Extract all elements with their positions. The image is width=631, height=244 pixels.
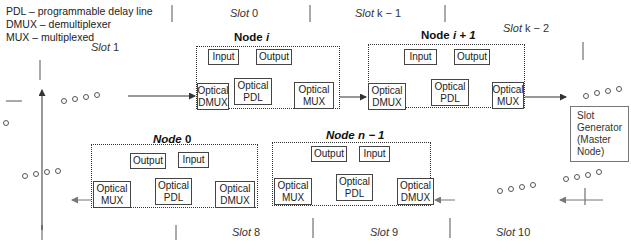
node-0-dmux: OpticalDMUX <box>215 181 255 208</box>
node-i-plus-1-input: Input <box>404 49 437 65</box>
node-n-minus-1-pdl: OpticalPDL <box>336 174 373 201</box>
node-0-mux: OpticalMUX <box>93 181 131 208</box>
node-0-output: Output <box>130 153 166 169</box>
node-n-minus-1-input: Input <box>359 146 390 162</box>
slot-k-1-label: Slot k − 1 <box>355 7 401 19</box>
node-i-mux: OpticalMUX <box>294 82 334 109</box>
slot-1-label: Slot 1 <box>91 41 119 53</box>
node-i-plus-1-dmux: OpticalDMUX <box>368 83 406 110</box>
node-i-plus-1-title: Node i + 1 <box>421 29 476 41</box>
slot-9-label: Slot 9 <box>370 226 398 238</box>
node-i-output: Output <box>256 49 292 65</box>
node-i-plus-1-pdl: OpticalPDL <box>431 79 469 106</box>
node-i-title: Node i <box>234 31 269 43</box>
node-i-plus-1-output: Output <box>454 49 490 65</box>
node-i-input: Input <box>208 49 239 65</box>
node-n-minus-1-title: Node n − 1 <box>326 129 384 141</box>
node-0-input: Input <box>178 152 209 168</box>
node-n-minus-1-mux: OpticalMUX <box>274 178 312 205</box>
node-0-pdl: OpticalPDL <box>155 178 192 205</box>
node-i-dmux: OpticalDMUX <box>197 83 229 110</box>
slot-k-2-label: Slot k − 2 <box>503 22 549 34</box>
slot-generator-master-node: Slot Generator (Master Node) <box>570 106 629 162</box>
node-i-plus-1-mux: OpticalMUX <box>492 82 524 109</box>
slot-10-label: Slot 10 <box>496 226 530 238</box>
node-i-pdl: OpticalPDL <box>234 78 272 105</box>
slot-0-label: Slot 0 <box>230 7 258 19</box>
node-n-minus-1-output: Output <box>311 146 347 162</box>
slot-8-label: Slot 8 <box>232 226 260 238</box>
node-n-minus-1-dmux: OpticalDMUX <box>397 178 434 205</box>
